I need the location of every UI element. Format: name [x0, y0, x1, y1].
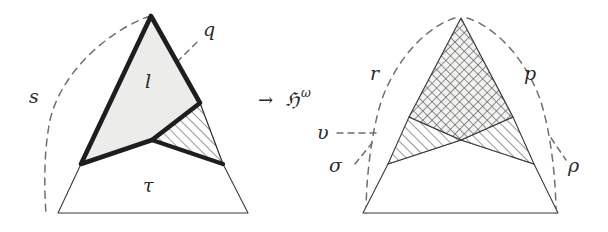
right-upper-triangle: [409, 18, 513, 140]
dashed-leader-q: [177, 39, 200, 62]
map-arrow-group: → ℌ ω: [258, 86, 311, 110]
label-s: s: [29, 85, 39, 107]
map-label-H: ℌ: [285, 88, 300, 110]
map-label-omega: ω: [301, 86, 311, 100]
label-r: r: [370, 62, 381, 84]
label-tau: τ: [143, 174, 154, 196]
label-sigma: σ: [329, 154, 343, 176]
right-panel: r p υ σ ρ: [317, 18, 580, 214]
label-rho: ρ: [567, 154, 580, 176]
left-panel: s q l τ: [29, 16, 248, 214]
arrow-icon: →: [258, 89, 273, 110]
label-q: q: [203, 18, 215, 40]
dashed-leader-rho: [551, 138, 566, 160]
label-p: p: [524, 62, 536, 84]
figure-root: s q l τ → ℌ ω r p υ σ ρ: [0, 0, 608, 232]
label-upsilon: υ: [317, 121, 329, 143]
label-l: l: [145, 70, 151, 92]
diagram-canvas: s q l τ → ℌ ω r p υ σ ρ: [0, 0, 608, 232]
